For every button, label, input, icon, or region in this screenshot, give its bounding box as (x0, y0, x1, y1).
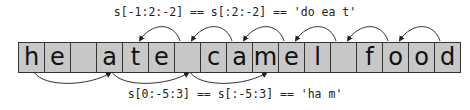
top-step-arrow (296, 27, 336, 41)
char-cell: c (201, 43, 227, 72)
bottom-step-arrow (112, 72, 188, 83)
char-cell: o (409, 43, 435, 72)
bottom-step-arrows (34, 72, 266, 83)
char-cell (175, 43, 201, 72)
bottom-slice-caption: s[0:-5:3] == s[:-5:3] == 'ha m' (0, 87, 470, 101)
char-cell: e (279, 43, 305, 72)
bottom-step-arrow (34, 72, 110, 83)
char-cell: o (383, 43, 409, 72)
top-step-arrow (348, 27, 388, 41)
char-cell: a (97, 43, 123, 72)
bottom-step-arrow (190, 72, 266, 83)
top-step-arrow (192, 27, 232, 41)
char-cell: e (45, 43, 71, 72)
char-cell (71, 43, 97, 72)
char-cell: l (305, 43, 331, 72)
char-cell: t (123, 43, 149, 72)
top-step-arrow (140, 27, 180, 41)
char-cell: e (149, 43, 175, 72)
top-step-arrows (140, 27, 440, 41)
char-cell: d (435, 43, 460, 72)
char-cell: h (19, 43, 45, 72)
char-cell: a (227, 43, 253, 72)
top-step-arrow (400, 27, 440, 41)
top-step-arrow (244, 27, 284, 41)
string-cells-row: h e a t e c a m e l f o o d (18, 42, 461, 73)
top-slice-caption: s[-1:2:-2] == s[:2:-2] == 'do ea t' (0, 5, 470, 19)
char-cell: m (253, 43, 279, 72)
char-cell (331, 43, 357, 72)
char-cell: f (357, 43, 383, 72)
